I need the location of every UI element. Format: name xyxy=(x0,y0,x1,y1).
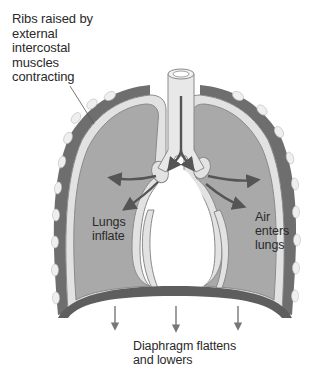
diaphragm-label: Diaphragm flattens and lowers xyxy=(133,339,236,367)
ribs-label: Ribs raised by external intercostal musc… xyxy=(12,12,93,85)
lungs-inflate-label: Lungs inflate xyxy=(92,215,126,243)
diaphragm-arrows xyxy=(115,306,238,330)
air-enters-label: Air enters lungs xyxy=(255,210,289,252)
